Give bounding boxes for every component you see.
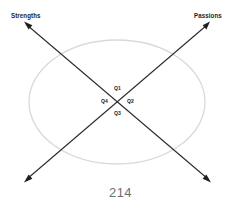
quadrant-label-q3: Q3 bbox=[114, 110, 121, 116]
quadrant-label-q2: Q2 bbox=[127, 98, 134, 104]
axis-label-passions: Passions bbox=[194, 12, 222, 19]
diagram-canvas bbox=[0, 0, 241, 214]
page-number: 214 bbox=[0, 186, 241, 199]
quadrant-diagram: Strengths Passions Q1 Q2 Q3 Q4 214 bbox=[0, 0, 241, 214]
quadrant-label-q4: Q4 bbox=[101, 98, 108, 104]
axis-label-strengths: Strengths bbox=[11, 12, 41, 19]
quadrant-label-q1: Q1 bbox=[114, 85, 121, 91]
